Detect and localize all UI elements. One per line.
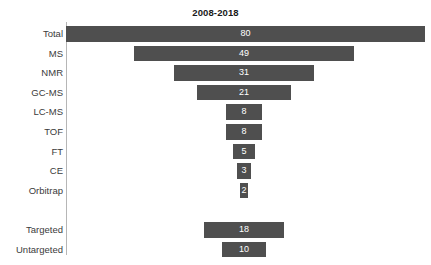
chart-row: FT5 [0,142,431,162]
chart-row: Untargeted10 [0,240,431,260]
bar [222,242,267,258]
bar [240,183,249,199]
bar [226,104,262,120]
bar [233,144,255,160]
category-label: Orbitrap [29,181,63,201]
category-label: Total [43,24,63,44]
chart-row: CE3 [0,161,431,181]
chart-row: TOF8 [0,122,431,142]
bar [134,46,354,62]
chart-row: Orbitrap2 [0,181,431,201]
category-label: LC-MS [33,102,63,122]
chart-row: Total80 [0,24,431,44]
chart-container: 2008-2018 Total80MS49NMR31GC-MS21LC-MS8T… [0,0,431,265]
category-label: Targeted [26,220,63,240]
bar [66,26,425,42]
category-label: FT [51,142,63,162]
chart-row: Targeted18 [0,220,431,240]
chart-row-spacer [0,200,431,220]
chart-row: LC-MS8 [0,102,431,122]
bar [226,124,262,140]
bar [204,222,285,238]
category-label: NMR [41,63,63,83]
category-label: TOF [44,122,63,142]
chart-row: GC-MS21 [0,83,431,103]
chart-row: NMR31 [0,63,431,83]
chart-row: MS49 [0,44,431,64]
category-label: CE [50,161,63,181]
category-label: MS [49,44,63,64]
category-label: GC-MS [31,83,63,103]
bar [197,85,291,101]
plot-area: Total80MS49NMR31GC-MS21LC-MS8TOF8FT5CE3O… [0,0,431,265]
category-label: Untargeted [16,240,63,260]
bar [174,65,313,81]
bar [237,163,250,179]
